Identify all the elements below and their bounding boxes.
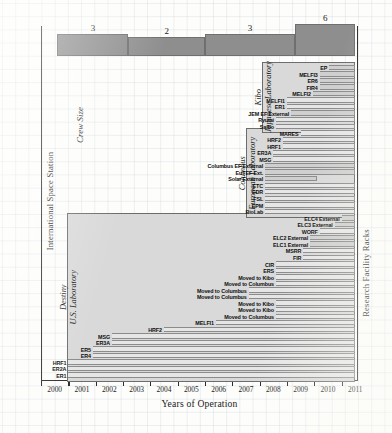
crew-size-label: Crew Size (75, 80, 85, 170)
rack-label: EP (237, 65, 327, 71)
rack-label: ER1 (195, 104, 285, 110)
rack-bar (112, 333, 355, 338)
rack-bar (265, 176, 317, 181)
y-axis-right-line (357, 26, 358, 381)
rack-bar (276, 281, 355, 286)
rack-bar (68, 366, 355, 371)
rack-label: ETC (173, 183, 263, 189)
rack-bar (287, 104, 355, 109)
rack-bar (265, 196, 355, 201)
rack-bar (320, 71, 356, 76)
rack-bar (276, 117, 355, 122)
rack-bar (68, 372, 355, 377)
rack-label: Saibo (184, 124, 274, 130)
rack-label: ER2A (0, 366, 66, 372)
rack-label: ERS (184, 268, 274, 274)
rack-label: MARES (209, 131, 299, 137)
rack-bar (310, 241, 355, 246)
rack-bar (216, 320, 355, 325)
rack-bar (303, 248, 355, 253)
x-axis-title: Years of Operation (41, 398, 358, 409)
rack-bar (93, 353, 355, 358)
crew-size-segment (295, 24, 355, 56)
rack-label: Columbus EF External (173, 163, 263, 169)
rack-label: HRF1 (0, 360, 66, 366)
rack-bar (283, 143, 355, 148)
rack-bar (93, 346, 355, 351)
rack-label: ELC2 External (218, 235, 308, 241)
rack-label: CIR (184, 262, 274, 268)
crew-size-value: 6 (313, 13, 337, 23)
rack-label: MELFI3 (228, 72, 318, 78)
rack-bar (291, 110, 355, 115)
rack-bar (276, 314, 355, 319)
rack-label: WORF (228, 229, 318, 235)
x-axis-tick-label: 2006 (204, 385, 234, 394)
rack-label: MELFI1 (195, 98, 285, 104)
x-axis-tick-label: 2010 (313, 385, 343, 394)
rack-bar (320, 78, 356, 83)
y-axis-left-title: International Space Station (45, 111, 55, 291)
rack-bar (320, 228, 356, 233)
x-axis-tick-label: 2007 (231, 385, 261, 394)
y-axis-left-line (41, 26, 42, 381)
rack-label: JEM EF External (199, 111, 289, 117)
rack-bar (265, 169, 355, 174)
rack-label: HRF2 (72, 327, 162, 333)
rack-label: ER5 (1, 347, 91, 353)
x-axis-tick-label: 2009 (286, 385, 316, 394)
rack-label: FIR4 (228, 85, 318, 91)
rack-bar (310, 235, 355, 240)
rack-bar (276, 307, 355, 312)
crew-size-segment (128, 37, 205, 56)
rack-bar (320, 84, 356, 89)
rack-label: HRF1 (191, 144, 281, 150)
rack-bar (273, 156, 355, 161)
rack-bar (68, 359, 355, 364)
x-axis-tick-label: 2005 (176, 385, 206, 394)
rack-bar (276, 274, 355, 279)
rack-label: ELC4 External (250, 216, 340, 222)
crew-size-value: 2 (155, 26, 179, 36)
rack-label: EuTEF Ext. (173, 170, 263, 176)
rack-label: EPM (173, 203, 263, 209)
crew-size-segment (57, 34, 128, 56)
rack-bar (335, 222, 355, 227)
rack-label: EDR (173, 189, 263, 195)
rack-label: Moved to Columbus (184, 314, 274, 320)
rack-label: ER3A (181, 150, 271, 156)
rack-bar (249, 294, 356, 299)
rack-bar (164, 327, 355, 332)
rack-label: MSG (20, 334, 110, 340)
rack-label: BioLab (173, 209, 263, 215)
rack-label: Solar External (173, 176, 263, 182)
rack-bar (301, 130, 356, 135)
rack-label: ER1 (0, 373, 66, 379)
crew-size-segment (205, 34, 295, 56)
rack-bar (276, 300, 355, 305)
y-axis-right-title: Research Facility Racks (361, 183, 371, 363)
rack-label: Moved to Columbus (157, 294, 247, 300)
rack-label: Moved to Kibo (184, 301, 274, 307)
rack-bar (276, 261, 355, 266)
rack-bar (276, 124, 355, 129)
rack-bar (112, 340, 355, 345)
crew-size-value: 3 (238, 23, 262, 33)
x-axis-tick-label: 2000 (40, 385, 70, 394)
rack-label: ELC3 External (243, 222, 333, 228)
x-axis-tick-label: 2004 (149, 385, 179, 394)
rack-label: MSRR (211, 248, 301, 254)
rack-bar (265, 183, 355, 188)
rack-bar (276, 268, 355, 273)
rack-bar (342, 215, 356, 220)
rack-bar (265, 189, 355, 194)
rack-label: MSG (181, 157, 271, 163)
rack-label: Ryutai (184, 117, 274, 123)
x-axis-tick-label: 2002 (94, 385, 124, 394)
x-axis-tick-label: 2008 (258, 385, 288, 394)
rack-bar (265, 209, 355, 214)
rack-label: HRF2 (191, 137, 281, 143)
rack-bar (329, 65, 355, 70)
rack-label: ER3A (20, 340, 110, 346)
rack-bar (283, 137, 355, 142)
